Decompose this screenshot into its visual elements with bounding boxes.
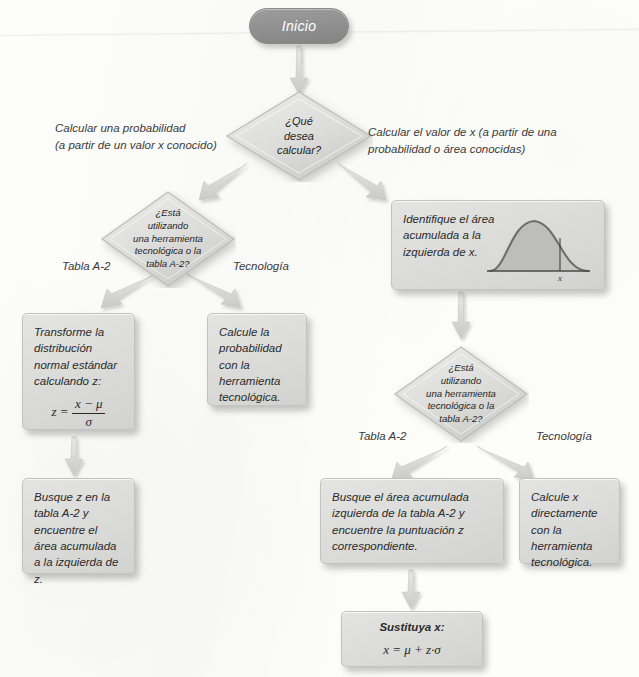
edge-label-right-tabla-a2: Tabla A-2 <box>358 428 406 445</box>
edge-label-right-branch: Calcular el valor de x (a partir de una … <box>368 124 557 157</box>
node-calcule-x-text: Calcule x directamente con la herramient… <box>531 489 608 571</box>
edge-label-left-branch: Calcular una probabilidad (a partir de u… <box>55 120 217 153</box>
node-decision-main-text: ¿Qué desea calcular? <box>245 114 353 158</box>
node-decision-left-herramienta[interactable]: ¿Está utilizando una herramienta tecnoló… <box>100 190 236 288</box>
formula-lhs: z = <box>52 404 69 419</box>
normal-curve-figure: x <box>484 211 596 287</box>
arrow-start-to-decision <box>290 46 308 94</box>
node-calcule-probabilidad-text: Calcule la probabilidad con la herramien… <box>219 324 295 406</box>
formula-denominator: σ <box>72 414 106 431</box>
node-identifique-area-acumulada[interactable]: Identifique el área acumulada a la izqui… <box>391 200 605 290</box>
node-busque-area-acumulada-tabla[interactable]: Busque el área acumulada izquierda de la… <box>320 478 504 564</box>
formula-substitute-x: x = μ + z·σ <box>353 641 471 659</box>
arrow-identify-to-rightdec <box>452 292 470 339</box>
node-decision-right-herramienta[interactable]: ¿Está utilizando una herramienta tecnoló… <box>393 345 529 443</box>
node-transforme-distribucion[interactable]: Transforme la distribución normal estánd… <box>22 313 135 430</box>
node-busque-z-text: Busque z en la tabla A-2 y encuentre el … <box>34 489 123 587</box>
formula-fraction: x − μ σ <box>72 396 106 430</box>
node-inicio-label: Inicio <box>282 18 316 34</box>
arrow-rightdec-to-lookuparea <box>391 446 447 481</box>
formula-numerator: x − μ <box>72 396 106 413</box>
node-transforme-text: Transforme la distribución normal estánd… <box>34 324 123 389</box>
node-calcule-probabilidad-tecnologia[interactable]: Calcule la probabilidad con la herramien… <box>207 313 307 406</box>
edge-label-left-tabla-a2: Tabla A-2 <box>62 258 110 275</box>
arrow-lookuparea-to-substitute <box>402 570 420 609</box>
node-sustituya-title: Sustituya x: <box>353 619 471 635</box>
arrow-rightdec-to-calcx <box>477 446 534 481</box>
normal-curve-svg: x <box>484 211 596 283</box>
formula-z-score: z = x − μ σ <box>34 396 123 430</box>
edge-label-left-tecnologia: Tecnología <box>233 258 289 275</box>
node-busque-area-text: Busque el área acumulada izquierda de la… <box>332 489 492 554</box>
node-busque-z-tabla[interactable]: Busque z en la tabla A-2 y encuentre el … <box>22 478 135 574</box>
arrow-transform-to-lookup <box>65 437 83 476</box>
node-calcule-x-tecnologia[interactable]: Calcule x directamente con la herramient… <box>519 478 620 564</box>
node-decision-left-text: ¿Está utilizando una herramienta tecnoló… <box>114 207 222 270</box>
edge-label-right-tecnologia: Tecnología <box>536 428 592 445</box>
curve-x-axis-label: x <box>557 273 562 283</box>
node-decision-right-text: ¿Está utilizando una herramienta tecnoló… <box>407 362 515 425</box>
node-decision-que-desea-calcular[interactable]: ¿Qué desea calcular? <box>225 90 373 182</box>
node-inicio[interactable]: Inicio <box>249 8 349 44</box>
node-sustituya-x[interactable]: Sustituya x: x = μ + z·σ <box>341 611 483 667</box>
